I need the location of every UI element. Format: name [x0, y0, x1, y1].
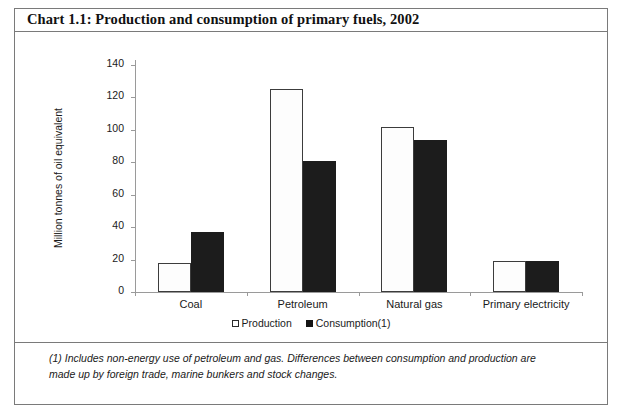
y-tick-label: 40	[112, 219, 124, 231]
x-axis-label: Primary electricity	[483, 298, 570, 310]
bar-consumption	[303, 161, 336, 292]
y-tick: 20	[131, 260, 135, 261]
y-tick-label: 20	[112, 252, 124, 264]
bar-production	[270, 89, 303, 292]
y-axis-title: Million tonnes of oil equivalent	[52, 73, 64, 283]
x-tick	[247, 292, 248, 296]
y-tick: 40	[131, 227, 135, 228]
y-tick: 120	[131, 97, 135, 98]
y-tick-label: 140	[106, 57, 124, 69]
legend-label-consumption: Consumption(1)	[316, 317, 391, 329]
y-tick: 60	[131, 195, 135, 196]
bar-consumption	[191, 232, 224, 292]
plot-area: 020406080100120140 CoalPetroleumNatural …	[135, 65, 582, 292]
y-tick-label: 100	[106, 122, 124, 134]
bar-production	[493, 261, 526, 292]
legend-swatch-production-icon	[232, 320, 239, 327]
y-tick: 100	[131, 130, 135, 131]
bar-production	[158, 263, 191, 292]
chart-legend: Production Consumption(1)	[15, 317, 607, 329]
chart-frame: Chart 1.1: Production and consumption of…	[14, 8, 608, 405]
bar-consumption	[414, 140, 447, 292]
x-tick	[582, 292, 583, 296]
y-tick: 80	[131, 162, 135, 163]
y-tick: 140	[131, 65, 135, 66]
chart-title-bar: Chart 1.1: Production and consumption of…	[15, 9, 607, 32]
x-tick	[359, 292, 360, 296]
bar-production	[381, 127, 414, 292]
chart-page: Chart 1.1: Production and consumption of…	[0, 0, 621, 416]
bar-consumption	[526, 261, 559, 292]
legend-label-production: Production	[242, 317, 292, 329]
x-axis-label: Natural gas	[386, 298, 442, 310]
x-tick	[135, 292, 136, 296]
legend-swatch-consumption-icon	[306, 320, 313, 327]
x-axis-label: Coal	[180, 298, 203, 310]
x-axis-label: Petroleum	[278, 298, 328, 310]
y-tick-label: 60	[112, 187, 124, 199]
legend-item-consumption: Consumption(1)	[306, 317, 391, 329]
x-tick	[470, 292, 471, 296]
page-title: Chart 1.1: Production and consumption of…	[27, 11, 419, 28]
y-tick-label: 120	[106, 89, 124, 101]
chart-body: Million tonnes of oil equivalent 0204060…	[15, 32, 607, 406]
legend-item-production: Production	[232, 317, 292, 329]
y-tick-label: 80	[112, 154, 124, 166]
y-axis-line	[135, 60, 136, 292]
chart-footnote: (1) Includes non-energy use of petroleum…	[49, 350, 564, 382]
y-tick-label: 0	[118, 284, 124, 296]
footnote-divider	[15, 342, 607, 343]
